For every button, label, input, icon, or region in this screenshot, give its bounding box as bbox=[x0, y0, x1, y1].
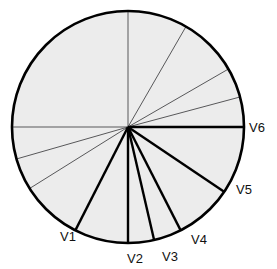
vector-label-v1: V1 bbox=[60, 229, 76, 244]
vector-label-v2: V2 bbox=[127, 251, 143, 266]
vector-label-v6: V6 bbox=[249, 120, 265, 135]
vector-circle-diagram: V1V2V3V4V5V6 bbox=[0, 0, 277, 269]
vector-label-v4: V4 bbox=[191, 232, 207, 247]
vector-label-v5: V5 bbox=[236, 182, 252, 197]
vector-label-v3: V3 bbox=[162, 249, 178, 264]
circle-diagram-canvas: V1V2V3V4V5V6 bbox=[0, 0, 277, 269]
